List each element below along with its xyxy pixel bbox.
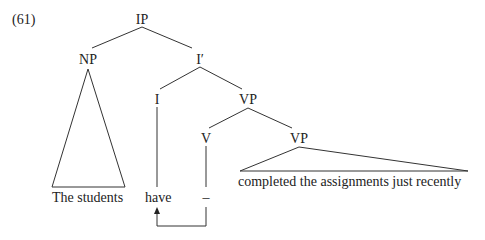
node-vp-upper: VP (239, 92, 257, 107)
node-v: V (201, 131, 211, 146)
arrowhead-icon (154, 207, 160, 214)
branch-vp-v (209, 108, 248, 128)
branch-ip-ibar (142, 27, 192, 48)
node-i: I (155, 92, 160, 107)
node-np: NP (79, 52, 97, 67)
branch-ip-np (92, 27, 142, 48)
leaf-vp-text: completed the assignments just recently (238, 174, 461, 189)
leaf-i-text: have (145, 190, 171, 205)
syntax-tree: (61) IP NP I′ I VP V VP The students hav… (0, 0, 485, 240)
branch-ibar-vp (200, 67, 242, 89)
leaf-np-text: The students (52, 190, 123, 205)
vp-triangle (240, 147, 468, 171)
branch-ibar-i (160, 67, 200, 89)
node-i-bar: I′ (196, 52, 204, 67)
leaf-v-trace: – (202, 190, 211, 205)
node-vp-lower: VP (290, 131, 308, 146)
movement-arrow-path (157, 207, 206, 226)
node-ip: IP (136, 12, 149, 27)
tree-branches (52, 27, 468, 187)
branch-vp-vp (248, 108, 292, 128)
example-number: (61) (12, 12, 36, 28)
np-triangle (52, 69, 125, 187)
movement-arrow (154, 207, 206, 226)
